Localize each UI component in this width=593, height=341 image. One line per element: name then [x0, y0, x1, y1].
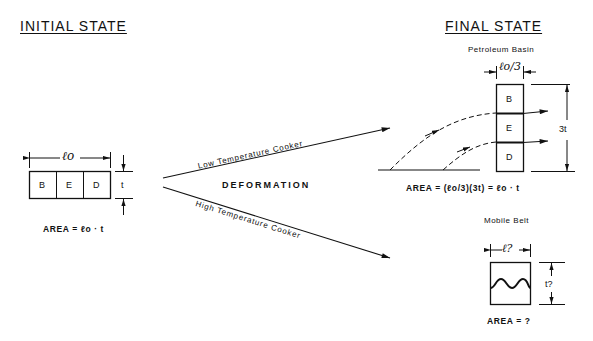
mobile-belt-box — [491, 263, 531, 305]
initial-thickness-label: t — [121, 180, 124, 190]
lower-path-arrow — [163, 187, 390, 258]
belt-area-formula: AREA = ? — [487, 316, 530, 326]
basin-height-dimension — [531, 85, 575, 172]
initial-thickness-dimension — [115, 155, 133, 215]
initial-cell-d: D — [93, 180, 100, 190]
basin-height-label: 3t — [559, 123, 567, 135]
initial-length-label: ℓo — [62, 149, 74, 164]
basin-width-label: ℓo/3 — [499, 60, 521, 73]
belt-name: Mobile Belt — [484, 216, 529, 225]
basin-name: Petroleum Basin — [468, 45, 534, 54]
belt-width-label: ℓ? — [502, 242, 512, 255]
basin-area-formula: AREA = (ℓo/3)(3t) = ℓo · t — [406, 183, 520, 193]
basin-cell-b: B — [506, 94, 512, 104]
initial-cell-b: B — [39, 180, 45, 190]
basin-cell-e: E — [506, 123, 512, 133]
lower-dashed-path — [443, 142, 496, 170]
final-state-title: FINAL STATE — [445, 18, 542, 34]
basin-cell-d: D — [506, 152, 513, 162]
deformation-label: DEFORMATION — [222, 180, 310, 190]
initial-cell-e: E — [66, 180, 72, 190]
upper-dashed-path — [390, 113, 496, 170]
belt-height-label: t? — [545, 278, 553, 290]
initial-state-title: INITIAL STATE — [20, 18, 127, 34]
initial-area-formula: AREA = ℓo · t — [43, 224, 104, 234]
